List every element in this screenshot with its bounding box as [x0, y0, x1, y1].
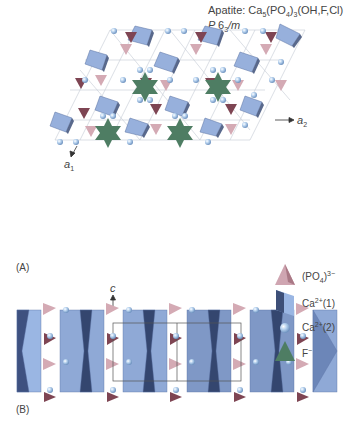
legend-ca1-label: Ca2+(1)	[302, 297, 335, 309]
axis-a1-sub: 1	[70, 165, 74, 172]
legend-text: (1)	[323, 298, 335, 309]
legend-sup: 2+	[315, 297, 323, 304]
legend-text: Ca	[302, 298, 315, 309]
axis-a2-sub: 2	[303, 121, 307, 128]
crystal-structure-diagram	[0, 0, 358, 427]
axis-label-a2: a2	[297, 114, 307, 128]
axis-label-a1: a1	[64, 158, 74, 172]
legend-text: (2)	[323, 322, 335, 333]
legend-sup: 3−	[327, 270, 335, 277]
panel-b-label: (B)	[16, 404, 29, 415]
legend-sup: −	[308, 347, 312, 354]
legend-text: Ca	[302, 322, 315, 333]
legend-fluorine-label: F−	[302, 347, 312, 359]
legend-ca2-label: Ca2+(2)	[302, 321, 335, 333]
ca2-legend-icon	[280, 323, 290, 333]
panel-a-label: (A)	[16, 262, 29, 273]
legend-sup: 2+	[315, 321, 323, 328]
legend-po4-label: (PO4)3−	[302, 270, 335, 284]
axis-label-c: c	[110, 282, 116, 294]
legend-text: (PO	[302, 271, 320, 282]
